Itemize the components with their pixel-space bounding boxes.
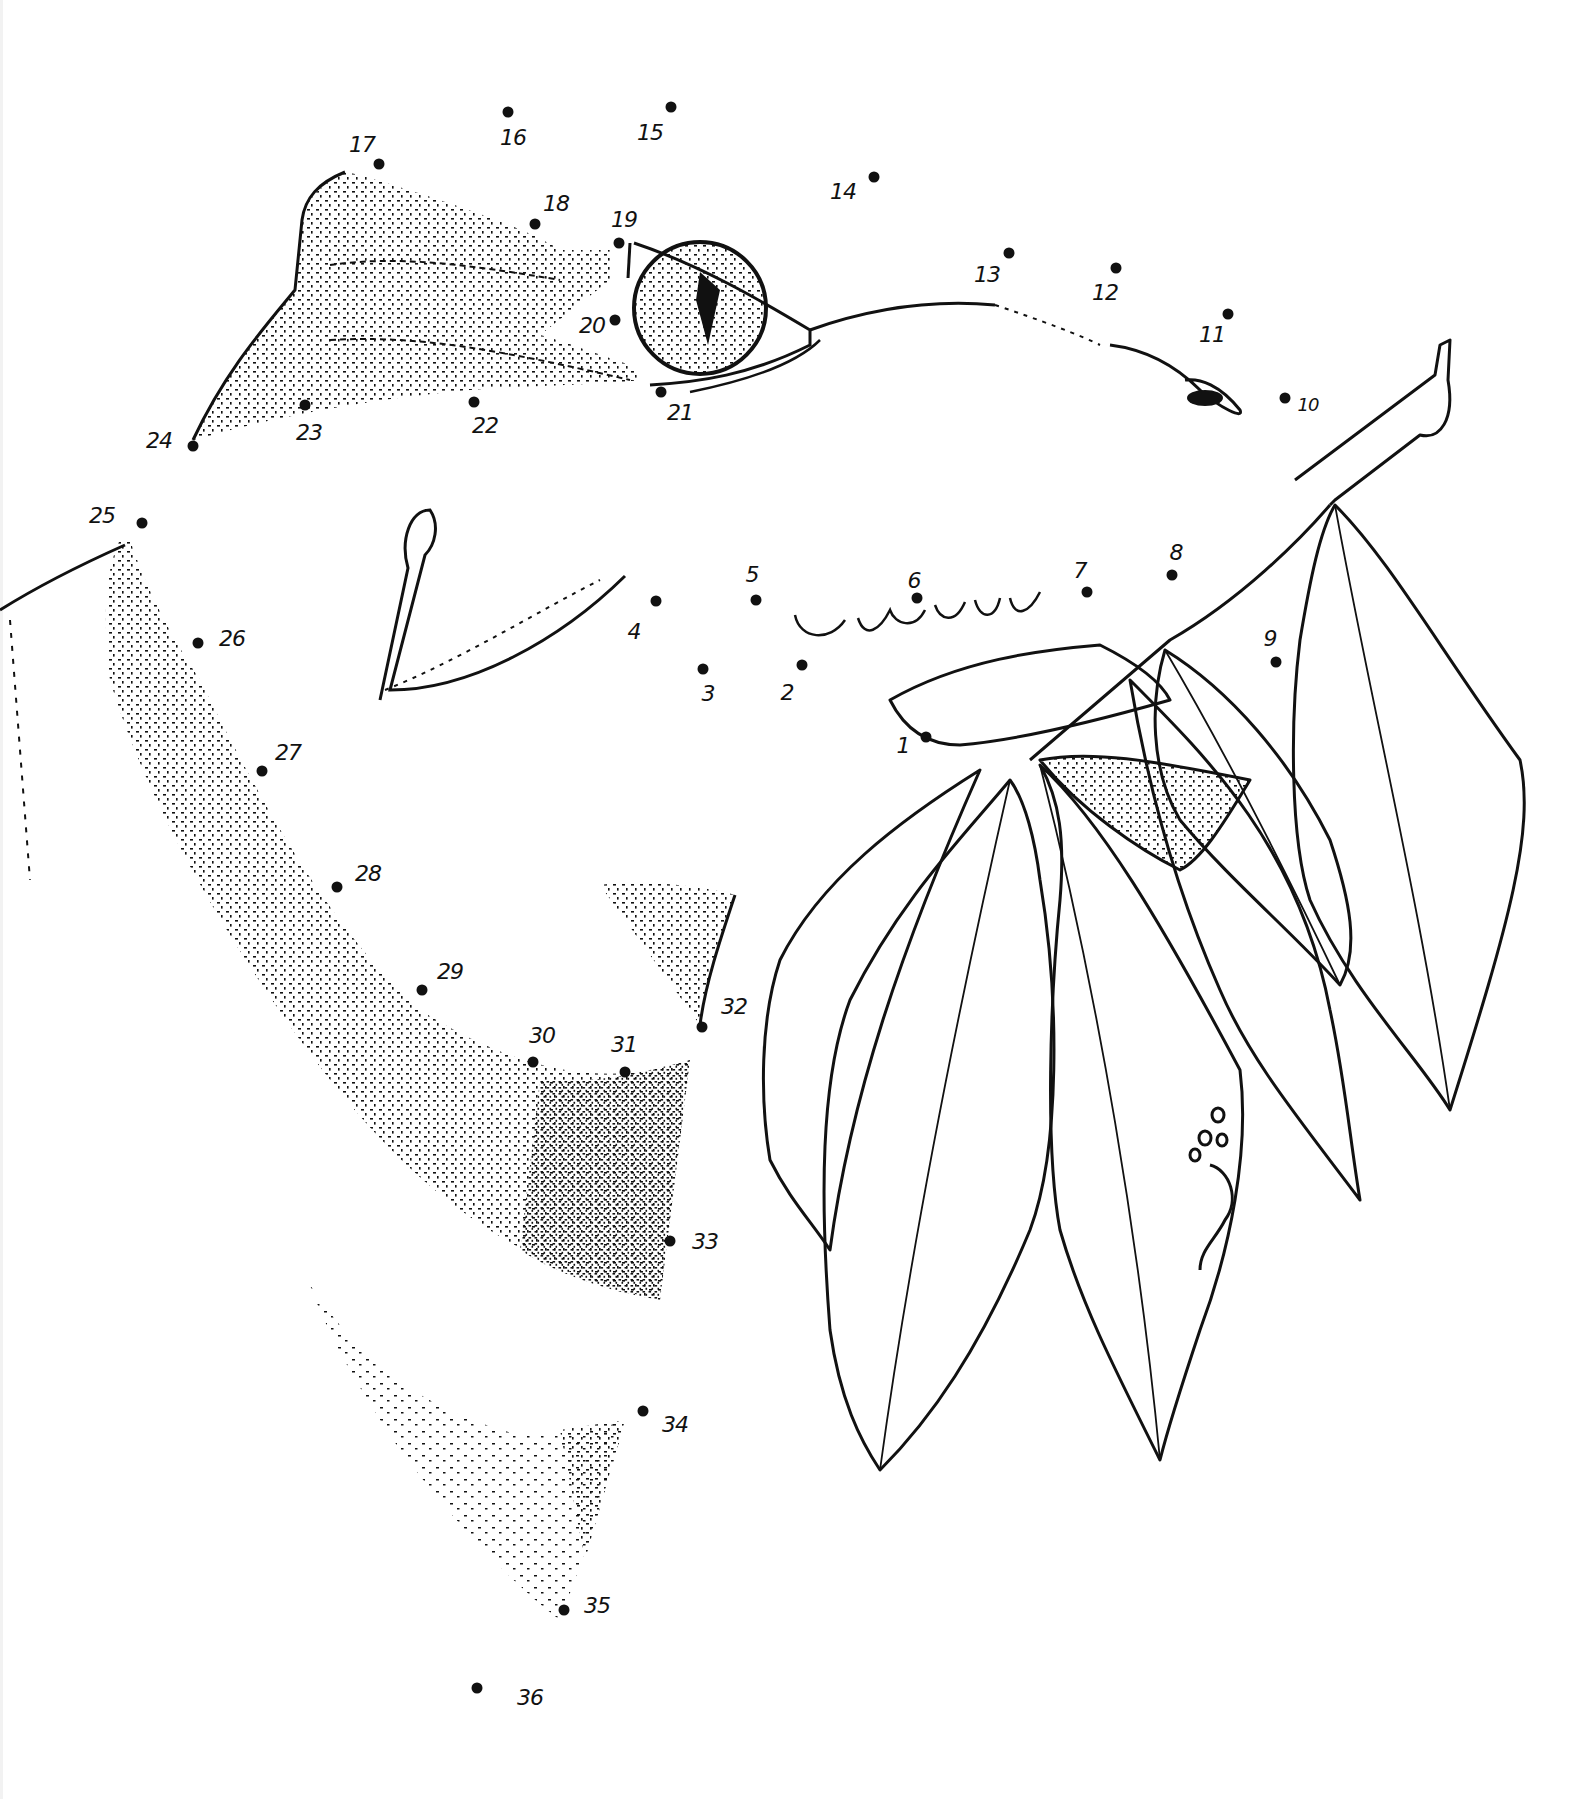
connect-dot-4[interactable] — [651, 596, 662, 607]
dot-number-label: 15 — [637, 120, 663, 145]
connect-dot-1[interactable] — [921, 732, 932, 743]
dot-number-label: 6 — [908, 568, 921, 593]
connect-dot-12[interactable] — [1111, 263, 1122, 274]
dot-number-label: 20 — [579, 313, 605, 338]
dot-number-label: 10 — [1298, 394, 1319, 415]
dot-number-label: 28 — [355, 861, 381, 886]
eye — [628, 242, 820, 392]
connect-dot-17[interactable] — [374, 159, 385, 170]
connect-dot-22[interactable] — [469, 397, 480, 408]
dot-number-label: 9 — [1264, 626, 1277, 651]
dot-number-label: 32 — [721, 994, 747, 1019]
dot-number-label: 27 — [275, 740, 301, 765]
dot-number-label: 11 — [1199, 322, 1225, 347]
dot-number-label: 16 — [500, 125, 526, 150]
dot-number-label: 24 — [146, 428, 172, 453]
connect-dot-25[interactable] — [137, 518, 148, 529]
dot-number-label: 3 — [702, 681, 715, 706]
connect-dot-8[interactable] — [1167, 570, 1178, 581]
connect-dot-14[interactable] — [869, 172, 880, 183]
dot-number-label: 12 — [1092, 280, 1118, 305]
connect-dot-16[interactable] — [503, 107, 514, 118]
throat-shading — [310, 1285, 625, 1620]
dot-number-label: 36 — [517, 1685, 543, 1710]
dot-number-label: 8 — [1170, 540, 1183, 565]
dot-number-label: 26 — [219, 626, 245, 651]
dot-number-label: 14 — [830, 179, 856, 204]
neck-shading — [0, 540, 735, 1300]
connect-dot-5[interactable] — [751, 595, 762, 606]
dot-number-label: 18 — [543, 191, 569, 216]
dot-number-label: 1 — [897, 733, 910, 758]
connect-dot-23[interactable] — [300, 400, 311, 411]
snout-line — [810, 303, 1241, 413]
dot-number-label: 17 — [349, 132, 375, 157]
leafy-branch — [763, 340, 1524, 1470]
connect-dot-31[interactable] — [620, 1067, 631, 1078]
dot-number-label: 33 — [692, 1229, 718, 1254]
connect-dot-6[interactable] — [912, 593, 923, 604]
connect-dot-2[interactable] — [797, 660, 808, 671]
dot-number-label: 21 — [667, 400, 693, 425]
dot-number-label: 31 — [611, 1032, 637, 1057]
dot-number-label: 2 — [781, 680, 794, 705]
connect-dot-34[interactable] — [638, 1406, 649, 1417]
dot-number-label: 35 — [584, 1593, 610, 1618]
connect-dot-11[interactable] — [1223, 309, 1234, 320]
connect-dot-10[interactable] — [1280, 393, 1291, 404]
dot-number-label: 22 — [472, 413, 498, 438]
dot-number-label: 7 — [1074, 558, 1087, 583]
connect-dot-29[interactable] — [417, 985, 428, 996]
connect-dot-20[interactable] — [610, 315, 621, 326]
connect-dot-35[interactable] — [559, 1605, 570, 1616]
dot-number-label: 19 — [611, 207, 637, 232]
connect-dot-30[interactable] — [528, 1057, 539, 1068]
connect-dot-13[interactable] — [1004, 248, 1015, 259]
connect-dot-33[interactable] — [665, 1236, 676, 1247]
dot-number-label: 30 — [529, 1023, 555, 1048]
dot-number-label: 5 — [746, 562, 759, 587]
dot-number-label: 25 — [89, 503, 115, 528]
connect-dot-24[interactable] — [188, 441, 199, 452]
connect-dot-19[interactable] — [614, 238, 625, 249]
dot-number-label: 4 — [628, 619, 641, 644]
connect-dot-9[interactable] — [1271, 657, 1282, 668]
line-drawing — [0, 0, 1575, 1799]
dot-number-label: 34 — [662, 1412, 688, 1437]
dot-number-label: 29 — [437, 959, 463, 984]
connect-dot-7[interactable] — [1082, 587, 1093, 598]
connect-dot-18[interactable] — [530, 219, 541, 230]
connect-dot-36[interactable] — [472, 1683, 483, 1694]
dot-number-label: 23 — [296, 420, 322, 445]
connect-dot-26[interactable] — [193, 638, 204, 649]
connect-dot-15[interactable] — [666, 102, 677, 113]
connect-dot-21[interactable] — [656, 387, 667, 398]
connect-dot-3[interactable] — [698, 664, 709, 675]
dot-number-label: 13 — [974, 262, 1000, 287]
cheek-shape — [380, 510, 625, 700]
brow-shading — [193, 172, 640, 440]
connect-dot-32[interactable] — [697, 1022, 708, 1033]
connect-dot-28[interactable] — [332, 882, 343, 893]
connect-dot-27[interactable] — [257, 766, 268, 777]
